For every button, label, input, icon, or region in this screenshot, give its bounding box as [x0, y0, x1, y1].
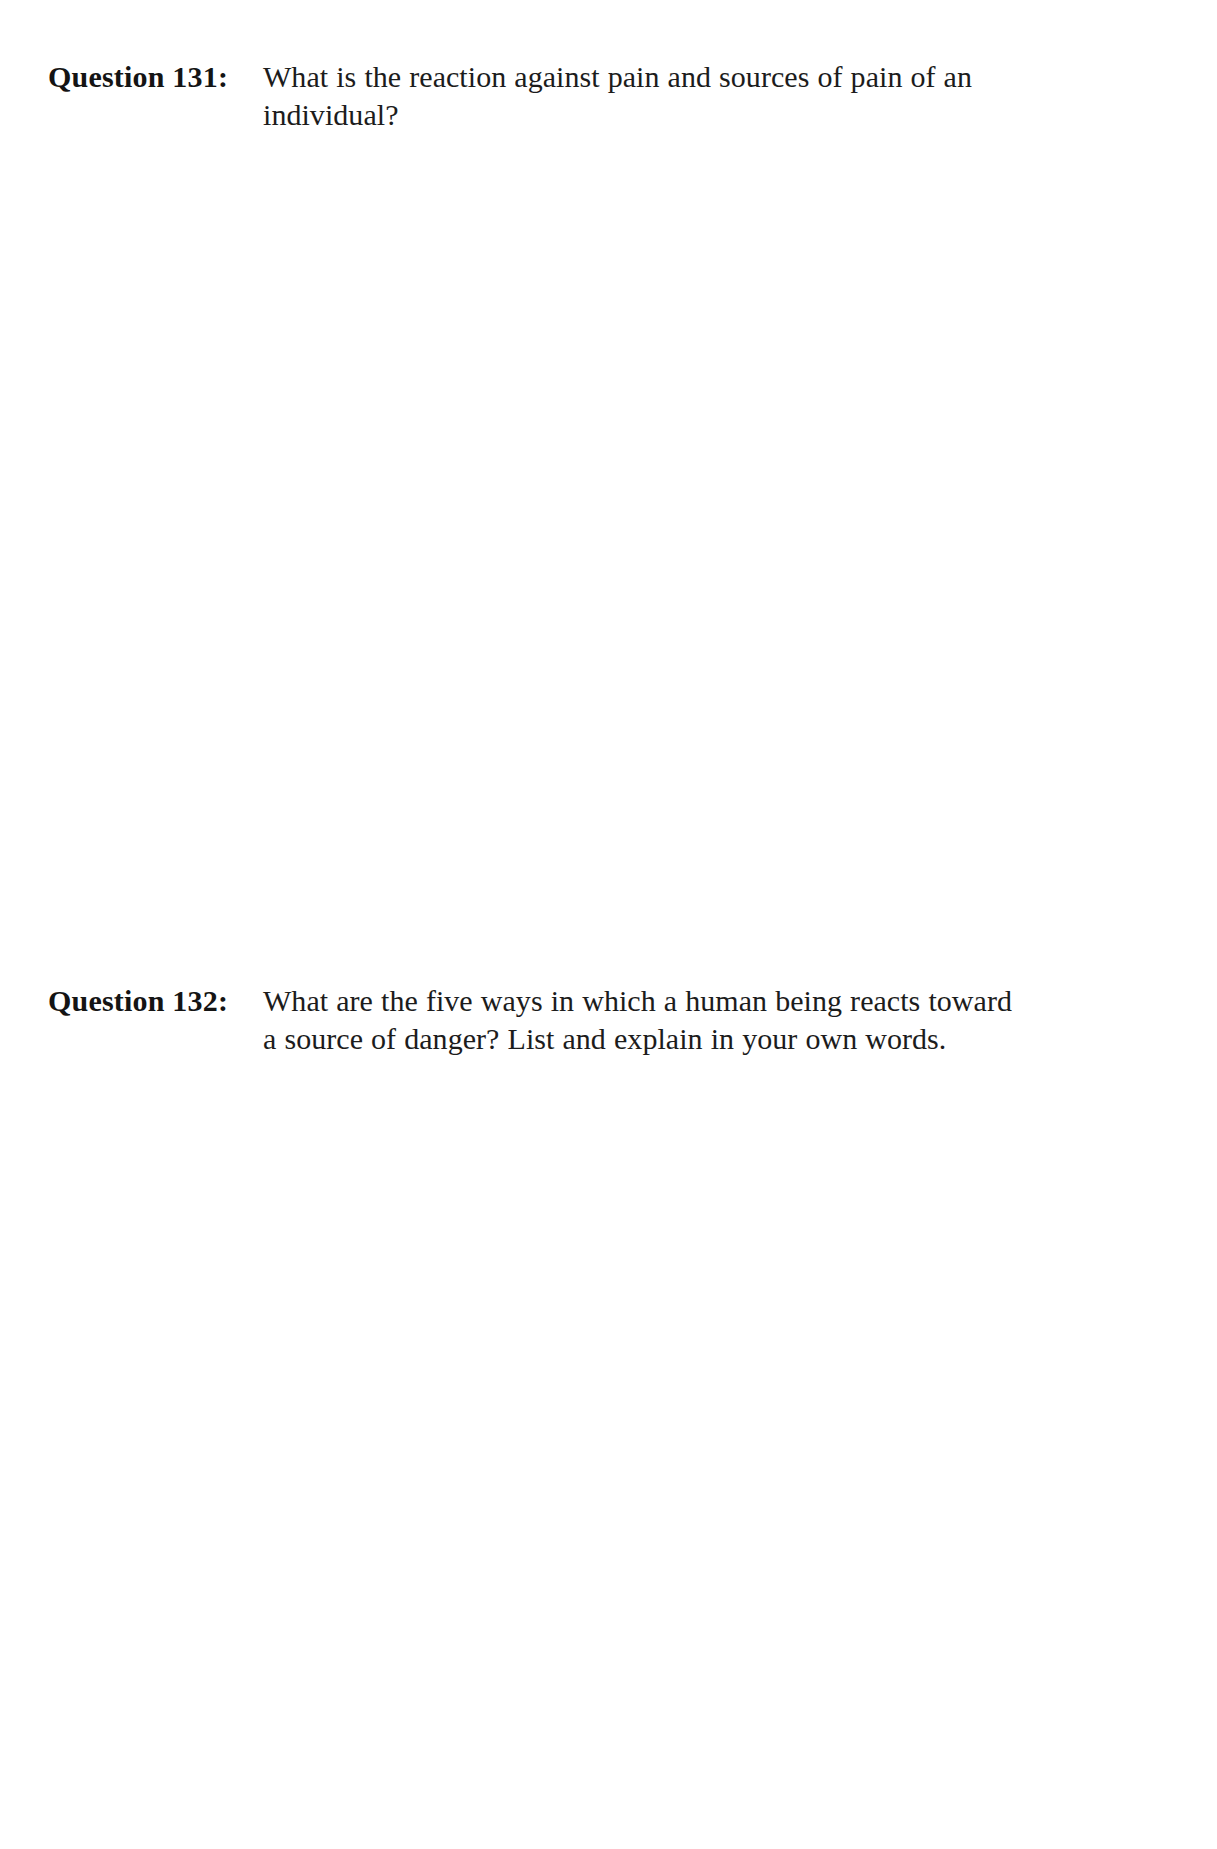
question-text-132-line-2: a source of danger? List and explain in …: [263, 1020, 1158, 1058]
question-label-131: Question 131:: [48, 58, 263, 96]
document-page: Question 131: What is the reaction again…: [0, 0, 1217, 1849]
question-text-131: What is the reaction against pain and so…: [263, 58, 1158, 134]
question-block-131: Question 131: What is the reaction again…: [48, 58, 1158, 134]
question-block-132: Question 132: What are the five ways in …: [48, 982, 1158, 1058]
question-text-132: What are the five ways in which a human …: [263, 982, 1158, 1058]
question-label-132: Question 132:: [48, 982, 263, 1020]
question-text-131-line-2: individual?: [263, 96, 1158, 134]
question-text-132-line-1: What are the five ways in which a human …: [263, 982, 1158, 1020]
answer-space-131[interactable]: [48, 150, 1158, 950]
question-text-131-line-1: What is the reaction against pain and so…: [263, 58, 1158, 96]
answer-space-132[interactable]: [48, 1072, 1158, 1802]
